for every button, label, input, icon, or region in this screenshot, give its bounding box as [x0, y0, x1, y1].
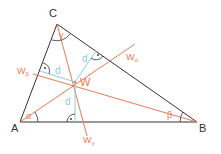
- incenter-point: [74, 81, 77, 84]
- right-angle-dot-ac: [44, 67, 46, 69]
- radius-label-ac: d: [55, 65, 61, 76]
- vertex-label-a: A: [11, 122, 19, 134]
- right-angle-ab: [67, 114, 75, 122]
- angle-label-alpha: α: [26, 111, 31, 121]
- right-angle-dot-ab: [70, 118, 72, 120]
- triangle-diagram: A B C α β γ W Wα Wβ Wγ d d d: [0, 0, 221, 154]
- radius-label-ab: d: [65, 96, 71, 107]
- angle-label-beta: β: [167, 110, 172, 120]
- right-angle-dot-bc: [97, 54, 99, 56]
- incenter-label: W: [80, 76, 91, 88]
- radius-label-bc: d: [82, 53, 88, 64]
- angle-arc-alpha: [35, 112, 38, 122]
- bisector-label-w-beta: Wβ: [17, 66, 30, 77]
- bisector-label-w-gamma: Wγ: [83, 135, 95, 146]
- bisector-w-beta: [33, 74, 197, 122]
- vertex-label-b: B: [199, 122, 206, 134]
- vertex-label-c: C: [49, 7, 57, 19]
- bisector-w-alpha: [20, 44, 135, 122]
- angle-label-gamma: γ: [59, 30, 64, 40]
- bisector-label-w-alpha: Wα: [126, 52, 139, 63]
